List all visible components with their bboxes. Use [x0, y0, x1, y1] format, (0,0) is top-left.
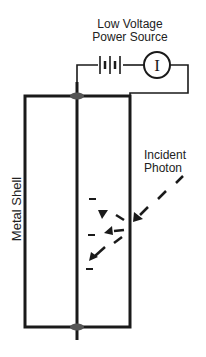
- incident-line2: Photon: [144, 162, 186, 175]
- electron-arrowhead-1: [98, 210, 108, 219]
- ammeter-icon: I: [144, 52, 170, 78]
- electron-2: [88, 234, 95, 236]
- meter-symbol: I: [154, 56, 160, 75]
- incident-photon-arrow: [140, 176, 183, 215]
- circuit-wires: [77, 65, 188, 96]
- electron-1: [89, 198, 96, 200]
- battery-icon: [100, 56, 120, 74]
- metal-shell-label: Metal Shell: [10, 177, 23, 241]
- incident-photon-label: Incident Photon: [144, 149, 186, 175]
- electron-arrowhead-2: [104, 226, 113, 235]
- electron-paths: [95, 215, 124, 256]
- bottom-seal: [70, 324, 84, 331]
- top-seal: [70, 93, 84, 100]
- electron-3: [86, 268, 93, 270]
- photoelectric-tube-diagram: I: [0, 0, 206, 357]
